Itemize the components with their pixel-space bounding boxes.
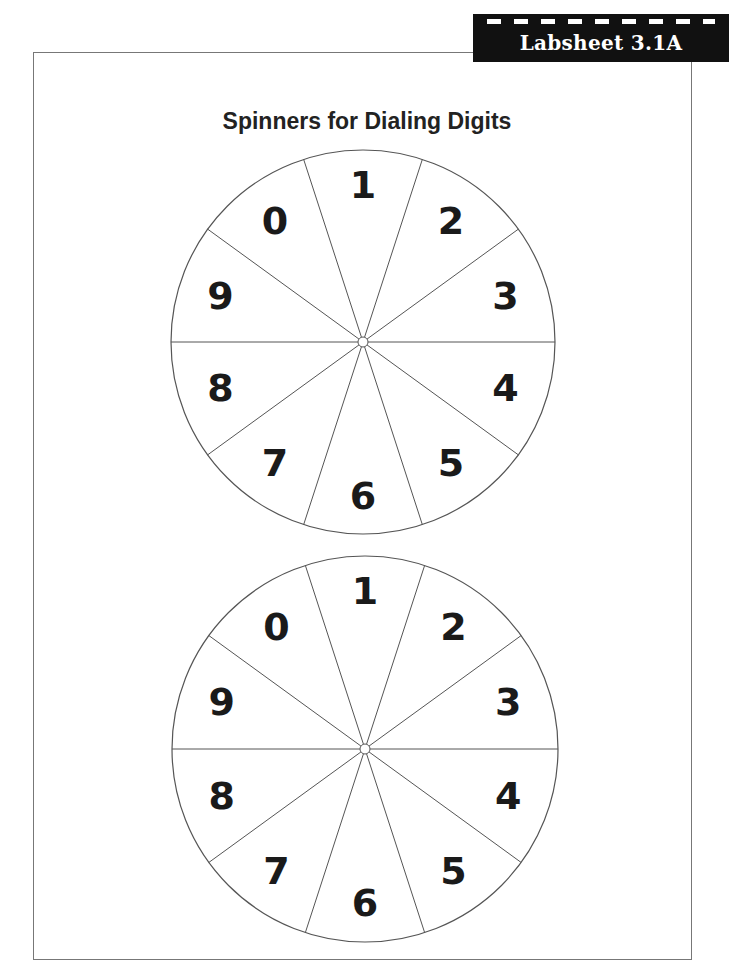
digit-3: 3 (492, 274, 518, 318)
digit-3: 3 (495, 680, 521, 724)
digit-5: 5 (438, 441, 464, 485)
spinner-hub (358, 337, 368, 347)
digit-8: 8 (209, 774, 235, 818)
digit-4: 4 (492, 366, 518, 410)
digit-4: 4 (495, 774, 521, 818)
spinner-2[interactable]: 1234567890 (172, 556, 558, 942)
digit-0: 0 (263, 605, 289, 649)
digit-9: 9 (209, 680, 235, 724)
spinner-1[interactable]: 1234567890 (171, 150, 555, 534)
digit-2: 2 (440, 605, 466, 649)
digit-2: 2 (438, 199, 464, 243)
digit-1: 1 (352, 569, 378, 613)
spinner-hub (360, 744, 370, 754)
spinners-canvas: 12345678901234567890 (0, 0, 734, 974)
digit-7: 7 (263, 849, 289, 893)
digit-0: 0 (262, 199, 288, 243)
digit-6: 6 (352, 881, 378, 925)
digit-1: 1 (350, 163, 376, 207)
digit-7: 7 (262, 441, 288, 485)
digit-8: 8 (207, 366, 233, 410)
digit-9: 9 (207, 274, 233, 318)
digit-5: 5 (440, 849, 466, 893)
digit-6: 6 (350, 474, 376, 518)
